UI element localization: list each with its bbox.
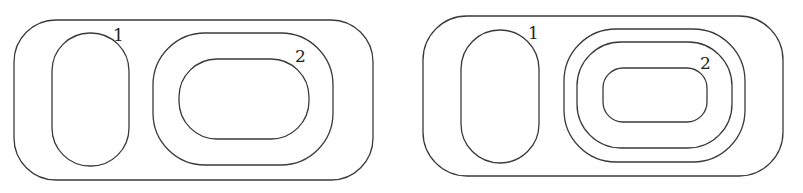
right-diagram: 1 2 (423, 16, 783, 176)
right-region-2-label: 2 (700, 53, 711, 73)
left-outer-boundary (14, 20, 373, 180)
left-region-1-label: 1 (113, 25, 124, 45)
right-region-1-boundary (461, 30, 539, 163)
left-region-1-boundary (52, 33, 129, 166)
left-diagram: 1 2 (14, 20, 373, 180)
left-region-2-inner-curve (179, 59, 309, 139)
right-region-2-curve-1 (564, 29, 745, 162)
right-region-2-curve-3 (603, 68, 707, 122)
diagram-canvas: 1 2 1 2 (0, 0, 803, 193)
left-region-2-label: 2 (295, 46, 306, 66)
left-region-2-outer-curve (153, 33, 333, 165)
right-region-1-label: 1 (528, 23, 539, 43)
